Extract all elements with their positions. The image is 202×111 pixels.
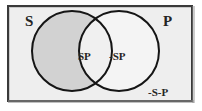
- label-region-p-only: -SP: [109, 51, 126, 62]
- venn-diagram-figure: S P SP -SP -S-P: [0, 0, 202, 111]
- label-set-s: S: [25, 14, 33, 29]
- label-region-intersection: SP: [78, 51, 91, 62]
- label-region-outside: -S-P: [148, 87, 168, 98]
- label-set-p: P: [163, 14, 172, 29]
